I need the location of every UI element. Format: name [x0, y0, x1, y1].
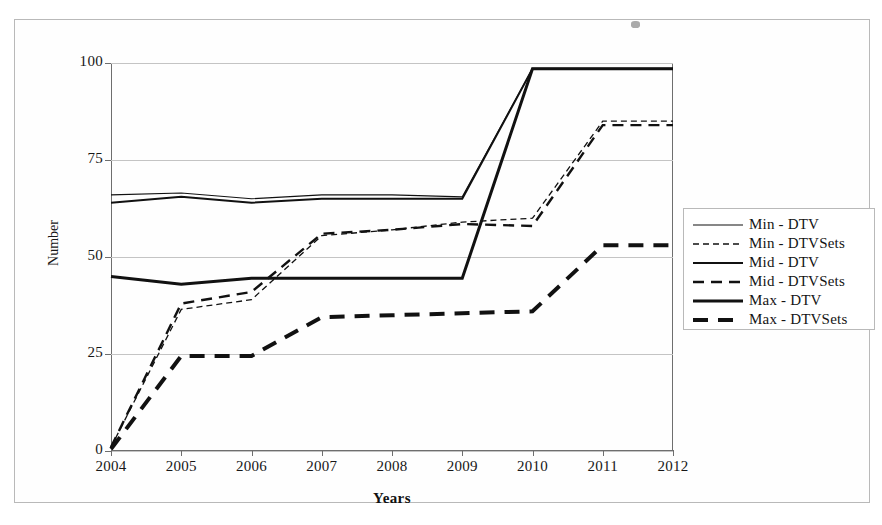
figure-frame: Number 0255075100 2004200520062007200820…	[14, 19, 870, 503]
legend-line-swatch-icon	[692, 238, 744, 250]
y-tickmark-100	[105, 63, 111, 64]
x-axis-title: Years	[111, 490, 673, 507]
legend-item-mid-dtvsets[interactable]: Mid - DTVSets	[684, 272, 874, 291]
series-lines	[111, 63, 673, 451]
legend-line-swatch-icon	[692, 257, 744, 269]
legend-item-max-dtv[interactable]: Max - DTV	[684, 291, 874, 310]
series-line-min-dtv	[111, 69, 673, 199]
legend-item-label: Mid - DTVSets	[749, 273, 845, 290]
x-tick-label-2005: 2005	[151, 458, 211, 475]
y-tick-label-50: 50	[59, 247, 103, 264]
y-tickmark-75	[105, 160, 111, 161]
y-tick-label-75: 75	[59, 150, 103, 167]
x-tick-label-2008: 2008	[362, 458, 422, 475]
x-tick-label-2011: 2011	[573, 458, 633, 475]
legend-item-label: Mid - DTV	[749, 254, 819, 271]
legend-item-mid-dtv[interactable]: Mid - DTV	[684, 253, 874, 272]
y-tickmark-50	[105, 257, 111, 258]
legend-line-swatch-icon	[692, 276, 744, 288]
legend-line-swatch-icon	[692, 314, 744, 326]
y-axis-tick-labels: 0255075100	[51, 63, 103, 451]
series-line-mid-dtv	[111, 69, 673, 203]
y-tickmark-25	[105, 354, 111, 355]
scan-artifact-speck	[631, 21, 640, 28]
legend-item-label: Min - DTV	[749, 216, 819, 233]
x-tick-label-2012: 2012	[643, 458, 703, 475]
x-tick-label-2010: 2010	[503, 458, 563, 475]
series-line-max-dtvsets	[111, 245, 673, 449]
plot-area	[111, 63, 673, 451]
y-tickmark-0	[105, 451, 111, 452]
legend: Min - DTVMin - DTVSetsMid - DTVMid - DTV…	[683, 208, 875, 330]
y-tick-label-0: 0	[59, 441, 103, 458]
x-axis-tick-labels: 200420052006200720082009201020112012	[111, 458, 673, 480]
legend-item-label: Max - DTVSets	[749, 311, 847, 328]
x-tickmark-2012	[673, 450, 674, 456]
legend-item-label: Min - DTVSets	[749, 235, 845, 252]
series-line-max-dtv	[111, 69, 673, 284]
legend-item-min-dtvsets[interactable]: Min - DTVSets	[684, 234, 874, 253]
legend-line-swatch-icon	[692, 295, 744, 307]
x-tick-label-2007: 2007	[292, 458, 352, 475]
legend-line-swatch-icon	[692, 219, 744, 231]
legend-item-min-dtv[interactable]: Min - DTV	[684, 215, 874, 234]
legend-item-max-dtvsets[interactable]: Max - DTVSets	[684, 310, 874, 329]
legend-item-label: Max - DTV	[749, 292, 822, 309]
x-tick-label-2004: 2004	[81, 458, 141, 475]
y-tick-label-25: 25	[59, 344, 103, 361]
y-tick-label-100: 100	[59, 53, 103, 70]
x-tick-label-2006: 2006	[222, 458, 282, 475]
series-line-mid-dtvsets	[111, 125, 673, 447]
x-tick-label-2009: 2009	[432, 458, 492, 475]
